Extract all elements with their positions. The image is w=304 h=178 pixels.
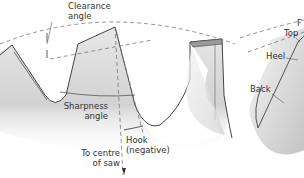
sharpness-label-line2: angle xyxy=(60,111,108,121)
clearance-label-line2: angle xyxy=(68,11,111,21)
heel-label: Heel xyxy=(266,51,285,61)
to-centre-label-line2: of saw xyxy=(72,158,120,168)
face-label: F xyxy=(297,18,302,28)
top-label: Top xyxy=(284,28,298,38)
hook-label-line2: (negative) xyxy=(126,145,170,155)
back-label: Back xyxy=(250,84,271,94)
to-centre-label-line1: To centre xyxy=(72,148,120,158)
hook-label: Hook (negative) xyxy=(126,135,170,155)
to-centre-label: To centre of saw xyxy=(72,148,120,168)
clearance-angle-label: Clearance angle xyxy=(68,1,111,21)
clearance-label-line1: Clearance xyxy=(68,1,111,11)
sharpness-angle-label: Sharpness angle xyxy=(60,101,108,121)
sharpness-label-line1: Sharpness xyxy=(60,101,108,111)
hook-label-line1: Hook xyxy=(126,135,170,145)
